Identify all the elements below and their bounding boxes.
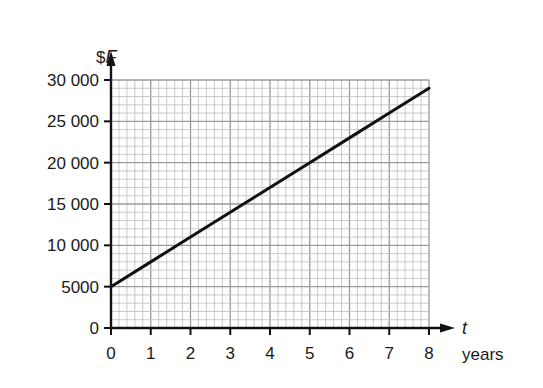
y-tick-label: 5000 — [61, 278, 99, 297]
y-axis-label: $F — [96, 47, 117, 67]
x-tick-label: 8 — [424, 344, 433, 363]
x-tick-label: 0 — [106, 344, 115, 363]
axes — [104, 51, 455, 335]
x-axis-arrow-icon — [440, 324, 455, 333]
x-tick-label: 2 — [186, 344, 195, 363]
tick-labels: 0500010 00015 00020 00025 00030 00001234… — [47, 71, 434, 363]
x-tick-label: 1 — [146, 344, 155, 363]
y-axis-label-var: F — [105, 47, 117, 67]
y-tick-label: 10 000 — [47, 236, 99, 255]
x-axis-label: t — [462, 318, 468, 338]
x-tick-label: 7 — [385, 344, 394, 363]
x-tick-label: 6 — [345, 344, 354, 363]
y-tick-label: 15 000 — [47, 195, 99, 214]
y-tick-label: 30 000 — [47, 71, 99, 90]
x-tick-label: 5 — [305, 344, 314, 363]
line-chart: 0500010 00015 00020 00025 00030 00001234… — [0, 0, 543, 388]
x-axis-units: years — [462, 345, 504, 364]
x-tick-label: 3 — [226, 344, 235, 363]
x-tick-label: 4 — [265, 344, 274, 363]
y-tick-label: 20 000 — [47, 154, 99, 173]
y-tick-label: 0 — [90, 319, 99, 338]
y-tick-label: 25 000 — [47, 112, 99, 131]
